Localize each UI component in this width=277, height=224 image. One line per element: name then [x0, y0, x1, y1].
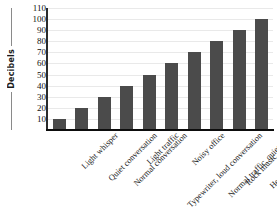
x-axis-tick-label: Light whisper — [79, 131, 119, 171]
y-axis-tick-labels: 102030405060708090100110 — [20, 8, 46, 130]
y-axis-tick-label: 110 — [33, 4, 46, 13]
y-axis-tick-label: 30 — [37, 92, 46, 101]
bar — [120, 86, 133, 130]
y-axis-title-group: Decibels — [2, 8, 20, 130]
bar — [98, 97, 111, 130]
x-axis-tick-label: Noisy office — [190, 131, 226, 167]
y-axis-tick-label: 20 — [37, 103, 46, 112]
y-axis-tick-label: 80 — [37, 37, 46, 46]
bar — [188, 52, 201, 130]
y-axis-tick-label: 50 — [37, 70, 46, 79]
y-axis-title-rule-bottom — [11, 92, 12, 130]
bar — [165, 63, 178, 130]
decibel-bar-chart: Decibels 102030405060708090100110 Light … — [0, 0, 277, 224]
y-axis-tick-label: 90 — [37, 26, 46, 35]
y-axis-tick-label: 60 — [37, 59, 46, 68]
bar — [75, 108, 88, 130]
y-axis-tick-label: 70 — [37, 48, 46, 57]
x-axis-tick-labels: Light whisperQuiet conversationNormal co… — [48, 131, 277, 223]
y-axis-title: Decibels — [7, 46, 16, 92]
bar — [143, 75, 156, 130]
bar — [233, 30, 246, 130]
bar — [210, 41, 223, 130]
y-axis-tick-label: 40 — [37, 81, 46, 90]
y-axis-tick-label: 100 — [33, 15, 47, 24]
bar — [255, 19, 268, 130]
y-axis-title-rule-top — [11, 8, 12, 46]
y-axis-line — [46, 8, 48, 131]
plot-area — [48, 8, 273, 130]
bar-series — [48, 8, 273, 130]
y-axis-tick-label: 10 — [37, 114, 46, 123]
x-axis-tick-label: Normal conversation — [131, 131, 188, 188]
